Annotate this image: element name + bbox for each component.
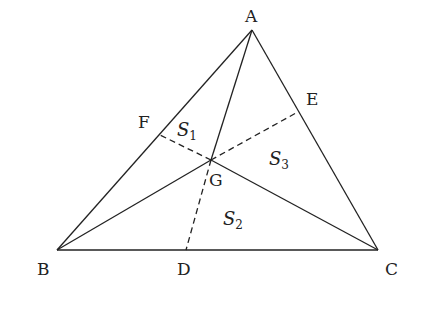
segment-ag [211, 30, 252, 160]
triangle-diagram: A B C D E F G S1 S2 S3 [0, 0, 421, 311]
label-d: D [177, 259, 191, 279]
label-b: B [37, 259, 50, 279]
label-e: E [306, 89, 318, 109]
area-s3: S3 [269, 148, 289, 172]
label-f: F [138, 112, 150, 132]
side-ca [252, 30, 378, 250]
segment-gd [186, 160, 211, 250]
label-g: G [209, 170, 223, 190]
area-s1: S1 [177, 119, 197, 143]
label-a: A [244, 6, 258, 26]
segment-bg [57, 160, 211, 250]
label-c: C [385, 259, 398, 279]
area-s2: S2 [223, 208, 243, 232]
